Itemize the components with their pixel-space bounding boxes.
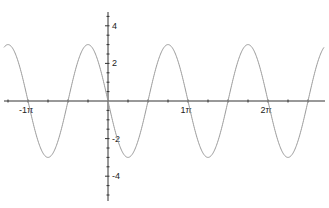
y-tick-label: 4 <box>112 21 117 31</box>
y-tick-label: 2 <box>112 58 117 68</box>
y-tick-label: -4 <box>112 171 120 181</box>
x-axis <box>4 100 325 103</box>
function-plot: -1π1π2π 42-2-4 <box>0 0 329 208</box>
